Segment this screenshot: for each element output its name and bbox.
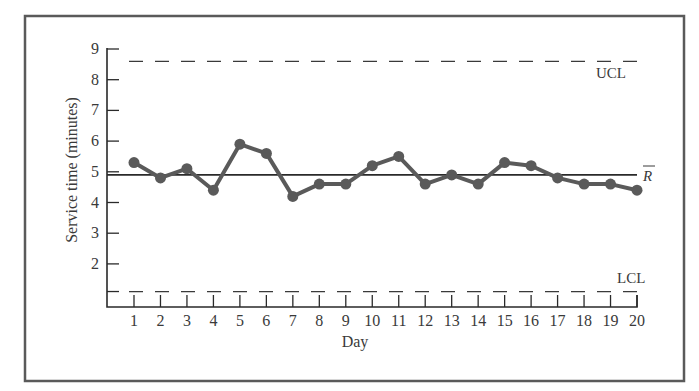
x-tick-label: 19 bbox=[603, 312, 619, 329]
x-tick-label: 11 bbox=[391, 312, 406, 329]
ucl-label: UCL bbox=[596, 65, 626, 81]
x-tick-label: 16 bbox=[523, 312, 539, 329]
x-tick-label: 15 bbox=[497, 312, 513, 329]
data-point bbox=[155, 172, 166, 183]
data-point bbox=[473, 179, 484, 190]
y-tick-label: 9 bbox=[91, 40, 99, 57]
data-point bbox=[579, 179, 590, 190]
x-tick-label: 17 bbox=[550, 312, 566, 329]
data-point bbox=[526, 160, 537, 171]
data-point bbox=[340, 179, 351, 190]
x-tick-label: 13 bbox=[444, 312, 460, 329]
x-tick-label: 9 bbox=[342, 312, 350, 329]
y-tick-label: 5 bbox=[91, 163, 99, 180]
y-tick-label: 2 bbox=[91, 255, 99, 272]
data-point bbox=[208, 185, 219, 196]
data-point bbox=[129, 157, 140, 168]
x-tick-label: 14 bbox=[470, 312, 486, 329]
data-point bbox=[234, 139, 245, 150]
data-point bbox=[367, 160, 378, 171]
data-point bbox=[287, 191, 298, 202]
data-point bbox=[420, 179, 431, 190]
lcl-label: LCL bbox=[617, 270, 645, 286]
x-tick-label: 12 bbox=[417, 312, 433, 329]
x-tick-label: 1 bbox=[130, 312, 138, 329]
data-series bbox=[129, 139, 643, 202]
data-point bbox=[632, 185, 643, 196]
x-tick-label: 20 bbox=[629, 312, 645, 329]
x-tick-label: 2 bbox=[156, 312, 164, 329]
x-axis-title: Day bbox=[342, 333, 369, 351]
y-tick-label: 8 bbox=[91, 71, 99, 88]
y-tick-label: 7 bbox=[91, 101, 99, 118]
r-bar-label: R bbox=[642, 166, 655, 184]
chart-canvas: 234567891234567891011121314151617181920 … bbox=[0, 0, 699, 391]
data-point bbox=[314, 179, 325, 190]
r-bar-text: R bbox=[642, 168, 652, 184]
data-point bbox=[499, 157, 510, 168]
x-tick-label: 6 bbox=[262, 312, 270, 329]
x-tick-label: 10 bbox=[364, 312, 380, 329]
data-point bbox=[552, 172, 563, 183]
y-tick-label: 4 bbox=[91, 194, 99, 211]
x-tick-label: 7 bbox=[289, 312, 297, 329]
x-tick-label: 5 bbox=[236, 312, 244, 329]
x-tick-label: 4 bbox=[209, 312, 217, 329]
x-tick-label: 3 bbox=[183, 312, 191, 329]
data-point bbox=[261, 148, 272, 159]
data-point bbox=[446, 169, 457, 180]
y-axis-title: Service time (minutes) bbox=[63, 97, 81, 243]
control-chart: 234567891234567891011121314151617181920 … bbox=[0, 0, 699, 391]
data-point bbox=[393, 151, 404, 162]
y-tick-label: 6 bbox=[91, 132, 99, 149]
y-tick-label: 3 bbox=[91, 224, 99, 241]
data-point bbox=[605, 179, 616, 190]
axes: 234567891234567891011121314151617181920 bbox=[91, 40, 645, 329]
x-tick-label: 18 bbox=[576, 312, 592, 329]
x-tick-label: 8 bbox=[315, 312, 323, 329]
data-point bbox=[181, 163, 192, 174]
